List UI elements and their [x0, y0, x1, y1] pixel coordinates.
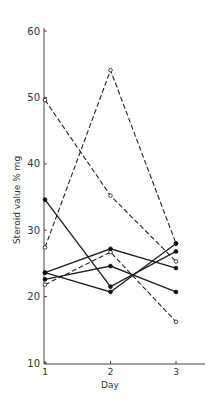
open-circle-marker — [174, 320, 178, 324]
y-tick-label: 40 — [27, 158, 40, 169]
x-axis-label: Day — [101, 380, 119, 390]
x-tick-label: 1 — [42, 367, 48, 377]
series-line — [45, 200, 176, 287]
filled-circle-marker — [174, 266, 178, 270]
y-tick-label: 10 — [27, 358, 40, 369]
filled-circle-marker — [109, 290, 113, 294]
filled-circle-marker — [109, 285, 113, 289]
chart-canvas: 102030405060123 Day Steroid value % mg — [0, 0, 220, 414]
open-circle-marker — [174, 260, 178, 264]
x-tick-label: 3 — [173, 367, 179, 377]
filled-circle-marker — [43, 277, 47, 281]
steroid-line-chart: 102030405060123 Day Steroid value % mg — [0, 0, 220, 414]
y-tick-label: 60 — [27, 26, 40, 37]
open-circle-marker — [43, 246, 47, 250]
filled-circle-marker — [174, 250, 178, 254]
open-circle-marker — [43, 98, 47, 102]
filled-circle-marker — [43, 271, 47, 275]
y-axis-label: Steroid value % mg — [12, 156, 22, 244]
open-circle-marker — [43, 283, 47, 287]
y-tick-label: 50 — [27, 92, 40, 103]
open-circle-marker — [109, 194, 113, 198]
filled-circle-marker — [109, 247, 113, 251]
filled-circle-marker — [43, 198, 47, 202]
series-line — [45, 100, 176, 261]
filled-circle-marker — [174, 242, 178, 246]
open-circle-marker — [109, 68, 113, 72]
series-line — [45, 70, 176, 247]
y-tick-label: 20 — [27, 291, 40, 302]
y-tick-label: 30 — [27, 225, 40, 236]
filled-circle-marker — [174, 290, 178, 294]
filled-circle-marker — [109, 264, 113, 268]
x-tick-label: 2 — [108, 367, 114, 377]
